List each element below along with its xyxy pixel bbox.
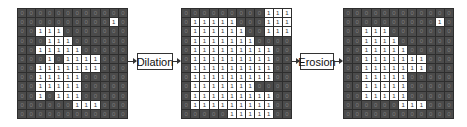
grid-cell: 0 bbox=[274, 37, 282, 45]
grid-cell: 0 bbox=[91, 18, 99, 26]
grid-cell: 0 bbox=[101, 110, 109, 118]
grid-cell: 0 bbox=[18, 55, 26, 63]
grid-cell: 0 bbox=[101, 46, 109, 54]
grid-cell: 0 bbox=[283, 55, 291, 63]
grid-cell: 1 bbox=[399, 73, 407, 81]
grid-cell: 0 bbox=[110, 73, 118, 81]
grid-cell: 0 bbox=[445, 9, 453, 17]
grid-cell: 1 bbox=[399, 46, 407, 54]
grid-cell: 1 bbox=[91, 64, 99, 72]
grid-cell: 1 bbox=[399, 64, 407, 72]
grid-cell: 1 bbox=[399, 55, 407, 63]
grid-cell: 1 bbox=[210, 55, 218, 63]
grid-cell: 1 bbox=[219, 55, 227, 63]
grid-cell: 0 bbox=[110, 55, 118, 63]
grid-cell: 0 bbox=[427, 37, 435, 45]
grid-cell: 0 bbox=[445, 110, 453, 118]
grid-cell: 0 bbox=[210, 110, 218, 118]
grid-cell: 0 bbox=[362, 9, 370, 17]
grid-cell: 1 bbox=[228, 46, 236, 54]
grid-cell: 0 bbox=[182, 55, 190, 63]
grid-cell: 1 bbox=[228, 37, 236, 45]
arrow-right-icon bbox=[334, 61, 342, 62]
grid-cell: 1 bbox=[200, 92, 208, 100]
grid-cell: 1 bbox=[372, 92, 380, 100]
grid-cell: 0 bbox=[353, 18, 361, 26]
grid-cell: 0 bbox=[436, 37, 444, 45]
grid-cell: 0 bbox=[408, 46, 416, 54]
grid-cell: 1 bbox=[228, 92, 236, 100]
grid-cell: 1 bbox=[237, 46, 245, 54]
grid-cell: 1 bbox=[219, 73, 227, 81]
grid-cell: 1 bbox=[265, 110, 273, 118]
grid-cell: 1 bbox=[399, 82, 407, 90]
grid-cell: 1 bbox=[191, 27, 199, 35]
grid-cell: 0 bbox=[390, 110, 398, 118]
grid-cell: 0 bbox=[110, 64, 118, 72]
grid-cell: 0 bbox=[119, 9, 127, 17]
grid-cell: 0 bbox=[344, 64, 352, 72]
grid-cell: 0 bbox=[283, 101, 291, 109]
grid-cell: 0 bbox=[46, 92, 54, 100]
grid-cell: 0 bbox=[445, 27, 453, 35]
grid-cell: 0 bbox=[445, 46, 453, 54]
grid-cell: 1 bbox=[110, 18, 118, 26]
grid-cell: 1 bbox=[219, 64, 227, 72]
grid-cell: 1 bbox=[255, 101, 263, 109]
grid-cell: 1 bbox=[362, 46, 370, 54]
grid-cell: 0 bbox=[64, 18, 72, 26]
grid-cell: 1 bbox=[381, 46, 389, 54]
grid-cell: 0 bbox=[110, 101, 118, 109]
grid-cell: 0 bbox=[445, 64, 453, 72]
grid-cell: 0 bbox=[436, 46, 444, 54]
grid-cell: 0 bbox=[344, 101, 352, 109]
grid-cell: 0 bbox=[55, 101, 63, 109]
grid-cell: 0 bbox=[283, 64, 291, 72]
grid-cell: 0 bbox=[36, 9, 44, 17]
grid-cell: 1 bbox=[372, 64, 380, 72]
grid-cell: 0 bbox=[119, 27, 127, 35]
grid-cell: 1 bbox=[210, 92, 218, 100]
grid-cell: 0 bbox=[219, 9, 227, 17]
grid-cell: 0 bbox=[182, 46, 190, 54]
grid-cell: 1 bbox=[237, 27, 245, 35]
grid-cell: 0 bbox=[436, 55, 444, 63]
grid-cell: 1 bbox=[36, 27, 44, 35]
grid-cell: 0 bbox=[344, 9, 352, 17]
grid-cell: 0 bbox=[417, 9, 425, 17]
grid-cell: 1 bbox=[36, 82, 44, 90]
grid-cell: 1 bbox=[265, 55, 273, 63]
grid-cell: 0 bbox=[55, 110, 63, 118]
grid-cell: 1 bbox=[362, 27, 370, 35]
grid-cell: 0 bbox=[119, 37, 127, 45]
grid-cell: 1 bbox=[372, 37, 380, 45]
grid-cell: 1 bbox=[265, 73, 273, 81]
grid-cell: 0 bbox=[417, 110, 425, 118]
grid-cell: 0 bbox=[110, 46, 118, 54]
grid-cell: 0 bbox=[427, 9, 435, 17]
grid-cell: 1 bbox=[82, 101, 90, 109]
grid-cell: 0 bbox=[274, 101, 282, 109]
grid-cell: 1 bbox=[417, 64, 425, 72]
grid-cell: 1 bbox=[417, 55, 425, 63]
grid-cell: 0 bbox=[27, 82, 35, 90]
grid-cell: 0 bbox=[255, 82, 263, 90]
grid-cell: 0 bbox=[27, 101, 35, 109]
grid-cell: 1 bbox=[237, 64, 245, 72]
grid-cell: 0 bbox=[101, 64, 109, 72]
grid-cell: 1 bbox=[200, 37, 208, 45]
grid-cell: 1 bbox=[200, 64, 208, 72]
grid-cell: 1 bbox=[237, 101, 245, 109]
grid-cell: 1 bbox=[73, 101, 81, 109]
grid-cell: 0 bbox=[73, 9, 81, 17]
grid-cell: 1 bbox=[219, 92, 227, 100]
grid-cell: 1 bbox=[191, 73, 199, 81]
grid-cell: 0 bbox=[18, 92, 26, 100]
grid-cell: 0 bbox=[445, 55, 453, 63]
eroded-binary-grid: 0000000000000000000000100011100000000011… bbox=[343, 8, 454, 119]
grid-cell: 1 bbox=[210, 27, 218, 35]
grid-cell: 1 bbox=[219, 27, 227, 35]
grid-cell: 1 bbox=[381, 55, 389, 63]
grid-cell: 0 bbox=[353, 92, 361, 100]
grid-cell: 0 bbox=[408, 9, 416, 17]
